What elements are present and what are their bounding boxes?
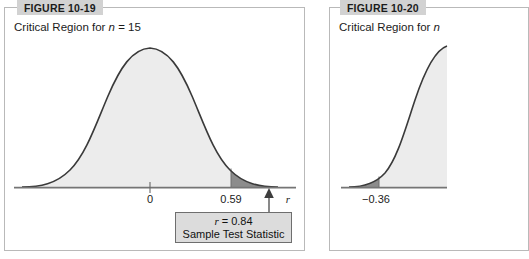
sample-statistic-arrow-icon (264, 188, 274, 198)
x-axis-variable-label: r (286, 193, 291, 205)
sample-test-statistic-value: r = 0.84 (214, 215, 252, 227)
curve-fill-light-2 (349, 46, 447, 187)
x-axis-tick-label-center: 0 (147, 193, 153, 205)
x-axis-tick-label-critical-2: −0.36 (362, 193, 390, 205)
sample-test-statistic-caption: Sample Test Statistic (183, 228, 285, 240)
curve-fill-light (22, 48, 278, 187)
sample-test-statistic-callout: r = 0.84 Sample Test Statistic (175, 212, 292, 243)
x-axis-tick-label-critical: 0.59 (220, 193, 241, 205)
normal-curve-chart-10-20: −0.36 (329, 0, 447, 255)
sample-statistic-equals-value: = 0.84 (219, 215, 253, 227)
